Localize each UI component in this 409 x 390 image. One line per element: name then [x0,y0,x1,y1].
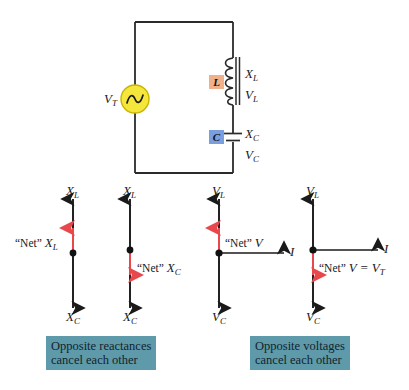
phasor-origin-dot [127,247,134,254]
caption-right-voltages: Opposite voltages cancel each other [250,336,350,370]
phasor-diagram-net-v-inductive [215,199,284,308]
phasor3-current-label: I [290,245,294,258]
phasor1-net-label: “Net” XL [15,236,58,252]
capacitor-label-box: C [209,130,224,144]
capacitor-symbol [224,134,242,141]
caption-left-line2: cancel each other [51,353,151,367]
caption-right-line1: Opposite voltages [255,339,345,353]
caption-left-reactances: Opposite reactances cancel each other [46,336,156,370]
inductor-annotations: XL VL [245,67,258,105]
capacitor-annotations: XC VC [245,127,259,165]
phasor4-bottom-label: VC [306,310,320,326]
phasor-origin-dot [70,250,77,257]
phasor4-current-label: I [384,242,388,255]
ac-source-icon [121,85,149,113]
figure-canvas: VT L C XL VL XC VC XL XC “Net” XL XL XC … [0,0,409,390]
inductor-voltage-label: VL [245,88,258,106]
phasor1-top-label: XL [66,184,79,200]
phasor-diagram-net-xc [127,199,134,308]
phasor4-top-label: VL [306,184,319,200]
phasor-diagram-net-v-capacitive [309,199,378,308]
phasor-origin-dot [309,246,316,253]
figure-vector-layer [0,0,409,390]
phasor3-net-label: “Net” V [225,236,263,250]
caption-left-line1: Opposite reactances [51,339,151,353]
circuit-wires [135,22,233,173]
source-label: VT [104,92,117,108]
phasor4-net-label: “Net” V = VT [319,261,385,277]
inductor-reactance-label: XL [245,67,258,85]
capacitor-voltage-label: VC [245,148,259,166]
phasor3-bottom-label: VC [212,310,226,326]
caption-right-line2: cancel each other [255,353,345,367]
phasor2-bottom-label: XC [123,310,137,326]
phasor3-top-label: VL [212,184,225,200]
phasor-origin-dot [215,249,222,256]
phasor2-top-label: XL [123,184,136,200]
inductor-label-box: L [209,75,224,89]
phasor-diagram-net-xl [70,199,77,308]
inductor-symbol [226,57,240,105]
capacitor-reactance-label: XC [245,127,259,145]
phasor2-net-label: “Net” XC [137,261,181,277]
phasor1-bottom-label: XC [66,310,80,326]
